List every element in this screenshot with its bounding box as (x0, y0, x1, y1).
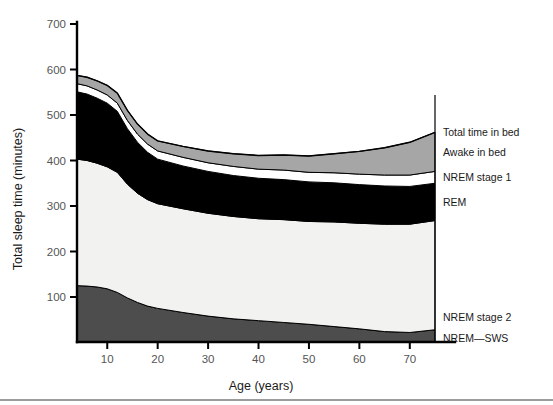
y-tick-label-100: 100 (47, 291, 66, 303)
y-tick-label-600: 600 (47, 64, 66, 76)
x-tick-label-50: 50 (303, 353, 316, 365)
y-tick-label-300: 300 (47, 200, 66, 212)
x-tick-label-30: 30 (202, 353, 215, 365)
legend-label-nrem-stage-2: NREM stage 2 (443, 311, 511, 323)
y-axis-title: Total sleep time (minutes) (11, 128, 25, 270)
x-tick-label-20: 20 (151, 353, 164, 365)
legend-label-nrem-sws: NREM—SWS (443, 332, 508, 344)
legend-label-rem: REM (443, 196, 466, 208)
y-tick-label-200: 200 (47, 246, 66, 258)
stacked-area-chart: 10203040506070 100200300400500600700 Tot… (0, 0, 553, 405)
x-axis-title: Age (years) (229, 379, 294, 393)
y-tick-label-500: 500 (47, 109, 66, 121)
legend-label-awake-in-bed: Awake in bed (443, 146, 506, 158)
x-tick-label-70: 70 (403, 353, 416, 365)
x-tick-label-10: 10 (101, 353, 114, 365)
y-tick-label-400: 400 (47, 155, 66, 167)
x-tick-label-40: 40 (252, 353, 265, 365)
sleep-architecture-figure: 10203040506070 100200300400500600700 Tot… (0, 0, 553, 405)
legend-label-nrem-stage-1: NREM stage 1 (443, 171, 511, 183)
y-tick-label-700: 700 (47, 18, 66, 30)
legend-label-total-time-in-bed: Total time in bed (443, 126, 520, 138)
x-tick-label-60: 60 (353, 353, 366, 365)
